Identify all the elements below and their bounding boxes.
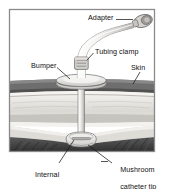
label-adapter: Adapter bbox=[88, 14, 114, 22]
label-mushroom-catheter-tip: Mushroom catheter tip bbox=[112, 158, 156, 189]
label-internal-cross-bar-line1: Internal bbox=[35, 170, 59, 179]
label-tubing-clamp: Tubing clamp bbox=[95, 48, 138, 56]
label-bumper: Bumper bbox=[31, 62, 56, 70]
label-mushroom-catheter-tip-line2: catheter tip bbox=[120, 182, 156, 189]
label-internal-cross-bar-line2: cross bar bbox=[32, 187, 62, 189]
gastrostomy-tube-figure: Adapter Tubing clamp Skin Bumper Interna… bbox=[0, 0, 172, 189]
label-internal-cross-bar: Internal cross bar bbox=[13, 163, 73, 189]
label-mushroom-catheter-tip-line1: Mushroom bbox=[120, 165, 154, 174]
anatomy-group bbox=[9, 9, 155, 152]
label-skin: Skin bbox=[131, 64, 145, 72]
